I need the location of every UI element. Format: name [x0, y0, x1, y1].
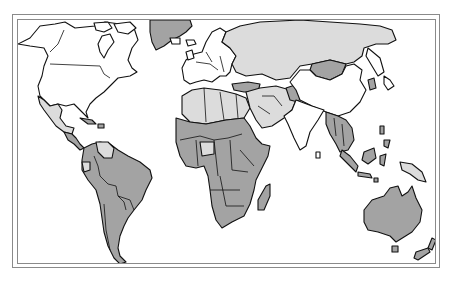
- region-new-zealand[interactable]: [428, 238, 436, 250]
- region-greenland[interactable]: [150, 20, 192, 50]
- region-central-america[interactable]: [64, 132, 84, 150]
- region-indonesia[interactable]: [340, 150, 358, 172]
- region-southeast-asia[interactable]: [326, 112, 354, 152]
- region-australia[interactable]: [364, 186, 422, 242]
- region-sub-saharan-africa[interactable]: [176, 118, 270, 228]
- world-map: [0, 0, 461, 282]
- region-madagascar[interactable]: [258, 184, 270, 210]
- region-papua-new-guinea[interactable]: [400, 162, 426, 182]
- region-south-america[interactable]: [82, 142, 152, 264]
- region-north-america[interactable]: [18, 22, 138, 118]
